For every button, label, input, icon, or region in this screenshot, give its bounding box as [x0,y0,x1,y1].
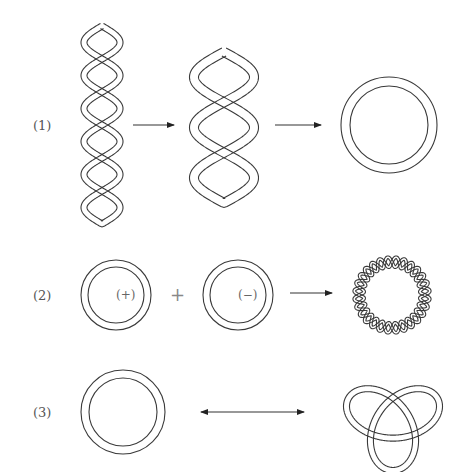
row-3: (3) [33,370,443,472]
positive-sign: (+) [116,288,135,302]
chain6-edge-a [81,29,123,227]
circle-negative: (−) [203,260,273,330]
plus-operator: + [170,284,185,305]
relaxed-circle-1 [341,77,437,173]
chain3-edge-b [190,48,259,207]
row-label-1: (1) [33,118,51,133]
trefoil-edge-b [349,392,436,468]
row-label-2: (2) [33,288,51,303]
strand-2-edge-b [353,256,431,334]
supercoiled-ring [353,256,431,334]
trefoil-knot [343,386,442,472]
row-label-3: (3) [33,405,51,420]
row-1: (1) [33,23,437,227]
trefoil-edge-a [343,386,442,472]
row-2: (2) (+) + (−) [33,256,431,334]
negative-sign: (−) [238,288,257,302]
twisted-chain-6-loops [81,23,123,227]
relaxed-circle-2 [81,370,165,454]
figure-eight-3-loops [190,48,259,207]
chain6-edge-b [81,23,123,221]
dna-topology-diagram: (1) (2) (+) + (−) (3) [0,0,471,472]
strand-1-edge-b [353,256,431,334]
chain3-edge-a [190,56,259,199]
circle-positive: (+) [81,260,151,330]
